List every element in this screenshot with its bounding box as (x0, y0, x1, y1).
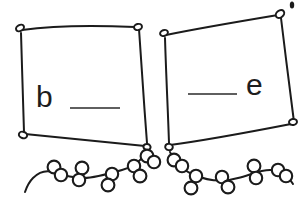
right-panel-content: e (188, 68, 263, 101)
right-tail-bead (280, 170, 292, 182)
left-tail-bead (134, 170, 147, 183)
right-tail-bead (250, 172, 262, 184)
right-tail-bead (222, 181, 235, 194)
left-tail-bead (148, 156, 160, 168)
right-panel-edge-right (281, 18, 294, 122)
right-panel-corner-loop-topleft (159, 29, 169, 37)
right-panel-corner-loop-topright (274, 8, 285, 19)
right-tail-bead (176, 160, 188, 172)
left-panel-edge-left (21, 33, 24, 132)
left-tail-bead (55, 169, 67, 181)
left-panel-edge-top (22, 26, 135, 30)
left-panel-corner-loop-topright (133, 23, 142, 31)
right-tail-bead (185, 182, 198, 195)
left-tail-bead (76, 162, 89, 175)
hand-drawn-illustration: b e (0, 0, 307, 216)
left-panel-corner-loop-topleft (15, 23, 25, 32)
right-tail-bead (248, 160, 261, 173)
right-panel-corner-loop-bottomright (288, 118, 297, 126)
scan-speck (290, 1, 294, 8)
left-kite-tail (25, 150, 160, 192)
left-panel-letter: b (36, 80, 53, 113)
right-kite-tail (168, 152, 293, 194)
left-tail-bead (102, 179, 115, 192)
left-panel-edge-bottom (25, 134, 145, 146)
right-panel-edge-bottom (170, 124, 291, 145)
right-panel-letter: e (246, 68, 263, 101)
right-panel-edge-top (166, 15, 278, 35)
left-panel-edge-right (139, 29, 147, 143)
left-panel-content: b (36, 80, 120, 113)
right-panel-edge-left (165, 38, 169, 143)
drawing-canvas: b e Letter blanks on kite panels _____ _… (0, 0, 307, 216)
right-tail-bead (190, 170, 202, 182)
left-tail-bead (73, 174, 85, 186)
right-kite-panel (159, 8, 297, 150)
right-panel-corner-loop-bottomleft (165, 143, 174, 151)
left-panel-corner-loop-bottomleft (18, 131, 28, 140)
